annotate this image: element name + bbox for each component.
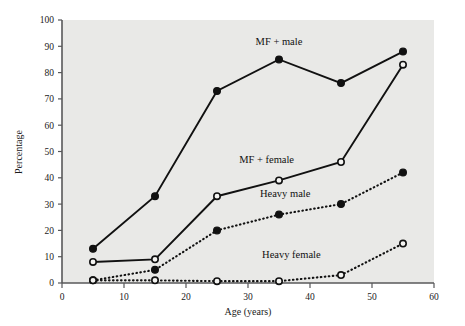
series-line-3 — [93, 244, 403, 282]
series-markers-group — [90, 48, 407, 284]
series-labels-group: MF + maleMF + femaleHeavy maleHeavy fema… — [239, 36, 321, 260]
series-label-0: MF + male — [256, 36, 303, 47]
x-tick-label: 10 — [119, 292, 129, 302]
data-point — [152, 266, 159, 273]
y-axis-title: Percentage — [13, 130, 24, 174]
x-tick-label: 50 — [367, 292, 377, 302]
data-point — [338, 159, 344, 165]
data-point — [152, 277, 158, 283]
data-point — [276, 211, 283, 218]
x-axis-ticks: 0102030405060 — [60, 283, 439, 302]
data-point — [214, 227, 221, 234]
data-point — [152, 193, 159, 200]
series-label-3: Heavy female — [262, 249, 321, 260]
y-tick-label: 70 — [45, 94, 55, 104]
data-point — [276, 56, 283, 63]
data-point — [214, 193, 220, 199]
data-point — [400, 240, 406, 246]
data-point — [276, 177, 282, 183]
x-axis-title: Age (years) — [225, 306, 272, 318]
series-lines-group — [93, 52, 403, 282]
data-point — [338, 80, 345, 87]
data-point — [90, 245, 97, 252]
data-point — [400, 169, 407, 176]
series-line-0 — [93, 52, 403, 249]
y-tick-label: 30 — [45, 200, 55, 210]
y-tick-label: 50 — [45, 147, 55, 157]
x-tick-label: 60 — [429, 292, 439, 302]
y-tick-label: 40 — [45, 173, 55, 183]
x-tick-label: 40 — [305, 292, 315, 302]
data-point — [276, 278, 282, 284]
y-tick-label: 20 — [45, 226, 55, 236]
data-point — [338, 272, 344, 278]
series-label-2: Heavy male — [260, 188, 311, 199]
chart-canvas: 0102030405060708090100 0102030405060 MF … — [0, 0, 465, 326]
data-point — [90, 277, 96, 283]
axes-group — [62, 20, 434, 283]
y-axis-ticks: 0102030405060708090100 — [40, 15, 62, 288]
data-point — [338, 201, 345, 208]
chart-container: 0102030405060708090100 0102030405060 MF … — [0, 0, 465, 326]
y-tick-label: 10 — [45, 252, 55, 262]
x-tick-label: 0 — [60, 292, 65, 302]
series-label-1: MF + female — [239, 154, 294, 165]
data-point — [214, 88, 221, 95]
data-point — [400, 48, 407, 55]
y-tick-label: 60 — [45, 121, 55, 131]
data-point — [90, 259, 96, 265]
y-tick-label: 80 — [45, 68, 55, 78]
y-tick-label: 0 — [49, 278, 54, 288]
data-point — [214, 278, 220, 284]
x-tick-label: 20 — [181, 292, 191, 302]
data-point — [400, 62, 406, 68]
y-tick-label: 90 — [45, 42, 55, 52]
data-point — [152, 256, 158, 262]
x-tick-label: 30 — [243, 292, 253, 302]
y-tick-label: 100 — [40, 15, 55, 25]
